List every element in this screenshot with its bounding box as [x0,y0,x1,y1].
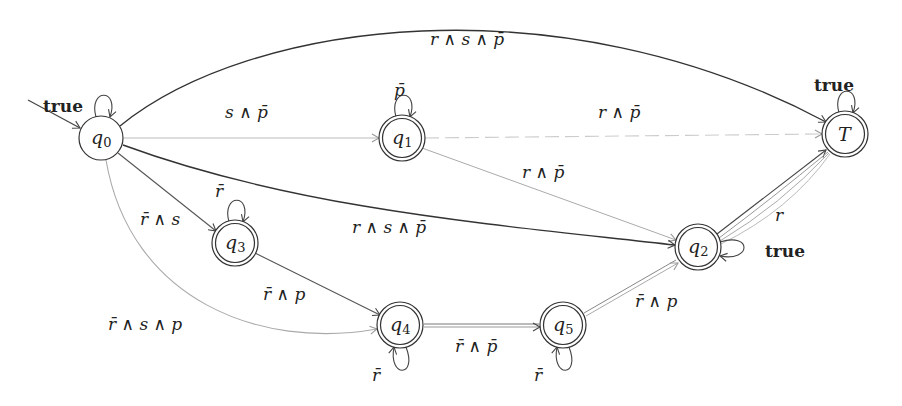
label-q4-self: r̄ [372,365,381,385]
loop-q5 [556,347,572,370]
label-q1-q2: r ∧ p̄ [522,162,564,182]
node-label-T: T [838,123,852,145]
edge-q1-T [425,134,822,138]
label-T-self: true [814,75,854,95]
label-q4-q5: r̄ ∧ p̄ [455,336,497,356]
label-q0-q1: s ∧ p̄ [225,102,268,122]
label-q0-q4: r̄ ∧ s ∧ p [108,314,182,334]
edge-q2-T-b [719,152,828,238]
label-q2-self: true [765,241,805,261]
label-q5-self: r̄ [534,365,543,385]
label-q2-T: r [775,205,784,225]
label-q0-T: r ∧ s ∧ p̄ [430,29,504,49]
label-q1-T: r ∧ p̄ [598,102,640,122]
label-q1-self: p̄ [394,80,405,100]
automaton-diagram: q0 q1 T q3 q2 q4 q5 true r ∧ s ∧ p̄ s ∧ … [0,0,902,406]
label-q5-q2: r̄ ∧ p [635,291,677,311]
edge-q2-T-c [720,153,829,241]
label-q3-self: r̄ [215,181,224,201]
loop-q0 [95,95,112,117]
label-q0-q2: r ∧ s ∧ p̄ [352,217,426,237]
edge-q2-T [717,150,826,234]
loop-q3 [228,200,245,222]
label-q0-self: true [43,96,83,116]
label-q3-q4: r̄ ∧ p [263,284,305,304]
loop-q4 [393,347,409,370]
label-q0-q3: r̄ ∧ s [140,209,180,229]
